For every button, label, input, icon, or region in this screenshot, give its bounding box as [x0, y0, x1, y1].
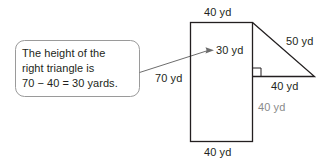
callout-line-3: 70 − 40 = 30 yards. [22, 76, 134, 91]
label-triangle-hypotenuse: 50 yd [286, 35, 313, 47]
math-figure-composite-shape: The height of the right triangle is 70 −… [0, 0, 325, 164]
rectangle-outline [191, 23, 253, 142]
triangle-outline [253, 23, 315, 77]
label-rectangle-left: 70 yd [155, 72, 182, 84]
callout-line-1: The height of the [22, 46, 134, 61]
label-lower-right-segment: 40 yd [258, 101, 285, 113]
label-triangle-base: 40 yd [271, 80, 298, 92]
callout-arrowhead-icon [206, 47, 215, 53]
callout-leader-line [140, 51, 209, 73]
label-rectangle-bottom: 40 yd [204, 146, 231, 158]
label-triangle-height: 30 yd [216, 44, 243, 56]
callout-text-block: The height of the right triangle is 70 −… [22, 46, 134, 91]
label-rectangle-top: 40 yd [204, 6, 231, 18]
right-angle-marker-icon [253, 68, 262, 77]
callout-line-2: right triangle is [22, 61, 134, 76]
